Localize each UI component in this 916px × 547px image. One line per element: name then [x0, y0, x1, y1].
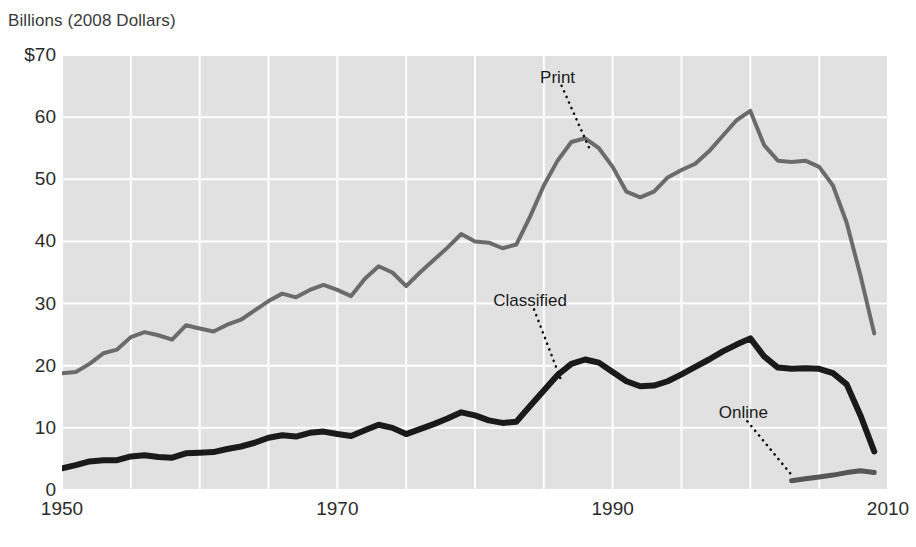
x-tick-label: 1950	[41, 498, 83, 520]
x-tick-label: 1990	[592, 498, 634, 520]
leader-line-classified	[534, 309, 560, 378]
plot-svg	[62, 55, 888, 490]
y-tick-label: 60	[35, 106, 56, 128]
plot-area	[62, 55, 888, 490]
x-tick-label: 2010	[867, 498, 909, 520]
y-tick-label: 40	[35, 230, 56, 252]
y-tick-label: 30	[35, 293, 56, 315]
series-lines	[62, 111, 874, 481]
y-axis-tick-labels: 0102030405060$70	[0, 0, 56, 547]
gridlines	[62, 55, 888, 490]
series-label-print: Print	[540, 68, 575, 88]
x-tick-label: 1970	[316, 498, 358, 520]
y-tick-label: 50	[35, 168, 56, 190]
series-label-online: Online	[719, 403, 768, 423]
chart-root: Billions (2008 Dollars) 0102030405060$70…	[0, 0, 916, 547]
y-tick-label: $70	[24, 44, 56, 66]
y-tick-label: 20	[35, 355, 56, 377]
series-label-classified: Classified	[493, 291, 567, 311]
leader-line-online	[747, 421, 791, 475]
y-tick-label: 10	[35, 417, 56, 439]
series-line-online	[792, 471, 875, 481]
